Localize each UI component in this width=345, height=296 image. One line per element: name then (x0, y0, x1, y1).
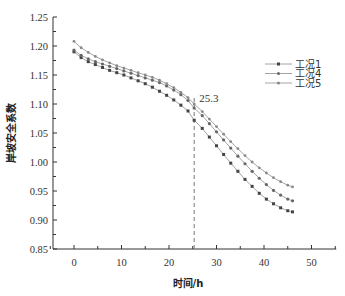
data-marker (193, 119, 196, 122)
series-2 (72, 48, 294, 202)
data-marker (215, 144, 218, 147)
data-marker (172, 86, 175, 89)
data-marker (187, 109, 190, 112)
data-marker (243, 162, 246, 165)
data-marker (193, 106, 196, 109)
data-marker (108, 65, 111, 68)
data-marker (244, 178, 247, 181)
data-marker (165, 82, 168, 85)
data-marker (286, 209, 289, 212)
x-axis-title: 时间/h (173, 277, 204, 289)
data-marker (208, 122, 211, 125)
data-marker (122, 69, 125, 72)
data-marker (208, 136, 211, 139)
data-marker (251, 170, 254, 173)
data-marker (236, 147, 239, 150)
data-marker (144, 74, 147, 77)
data-marker (94, 55, 97, 58)
data-marker (236, 170, 239, 173)
data-marker (265, 198, 268, 201)
data-marker (222, 133, 225, 136)
data-marker (137, 74, 140, 77)
data-marker (144, 76, 147, 79)
data-marker (222, 138, 225, 141)
legend-item-3: 工况5 (265, 78, 321, 89)
data-marker (265, 183, 268, 186)
data-marker (130, 76, 133, 79)
data-marker (236, 155, 239, 158)
data-marker (122, 67, 125, 70)
y-tick-label: 1.05 (30, 128, 48, 139)
legend-marker-icon (277, 72, 280, 75)
data-marker (215, 130, 218, 133)
data-marker (258, 177, 261, 180)
data-marker (291, 199, 294, 202)
y-tick-label: 0.85 (30, 244, 48, 255)
x-tick-label: 40 (259, 257, 270, 268)
data-marker (229, 146, 232, 149)
data-marker (129, 72, 132, 75)
data-marker (101, 59, 104, 62)
data-marker (87, 60, 90, 63)
data-marker (94, 60, 97, 63)
data-marker (151, 79, 154, 82)
data-marker (87, 51, 90, 54)
y-tick-label: 0.95 (30, 186, 48, 197)
data-marker (108, 69, 111, 72)
y-axis-title: 岸坡安全系数 (5, 102, 17, 163)
data-marker (179, 91, 182, 94)
x-tick-label: 50 (306, 257, 317, 268)
data-marker (87, 57, 90, 60)
data-marker (179, 104, 182, 107)
data-marker (201, 127, 204, 130)
series-line (74, 52, 293, 212)
data-marker (151, 86, 154, 89)
data-marker (151, 76, 154, 79)
series-3 (73, 40, 294, 188)
data-marker (115, 67, 118, 70)
data-marker (101, 62, 104, 65)
data-marker (279, 193, 282, 196)
data-marker (137, 79, 140, 82)
y-tick-label: 1.20 (30, 41, 48, 52)
x-tick-label: 20 (164, 257, 175, 268)
y-tick-label: 1.00 (30, 157, 48, 168)
legend: 工况1工况4工况5 (265, 59, 321, 89)
data-marker (222, 153, 225, 156)
data-marker (187, 96, 190, 99)
y-tick-label: 1.10 (30, 99, 48, 110)
data-marker (229, 162, 232, 165)
data-marker (291, 186, 294, 189)
x-tick-label: 30 (211, 257, 222, 268)
legend-marker-icon (277, 63, 280, 66)
data-marker (165, 94, 168, 97)
data-marker (172, 98, 175, 101)
data-marker (258, 192, 261, 195)
annotation-label: 25.3 (199, 92, 219, 104)
data-marker (158, 79, 161, 82)
data-marker (272, 202, 275, 205)
data-marker (137, 71, 140, 74)
data-marker (229, 140, 232, 143)
data-marker (286, 184, 289, 187)
data-marker (158, 90, 161, 93)
line-chart: 0.850.900.951.001.051.101.151.201.25 010… (0, 0, 345, 296)
data-marker (122, 74, 125, 77)
data-marker (258, 166, 261, 169)
data-marker (251, 161, 254, 164)
data-marker (291, 210, 294, 213)
data-marker (272, 176, 275, 179)
data-marker (72, 48, 75, 51)
data-marker (115, 71, 118, 74)
series-line (74, 41, 293, 187)
data-marker (108, 61, 111, 64)
x-tick-label: 0 (71, 257, 76, 268)
y-tick-label: 0.90 (30, 215, 48, 226)
y-tick-label: 1.25 (30, 12, 48, 23)
data-marker (130, 69, 133, 72)
legend-label: 工况5 (295, 78, 321, 89)
series-lines (72, 40, 294, 213)
data-marker (215, 125, 218, 128)
data-marker (251, 185, 254, 188)
data-marker (144, 82, 147, 85)
